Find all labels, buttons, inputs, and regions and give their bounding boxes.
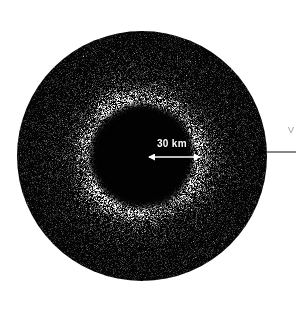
scale-bar-label: 30 km [157,139,187,149]
figure-container: 30 km V [0,0,296,311]
debris-disk-scatter-plot [0,0,296,311]
edge-clipped-text-label: V [288,126,294,135]
